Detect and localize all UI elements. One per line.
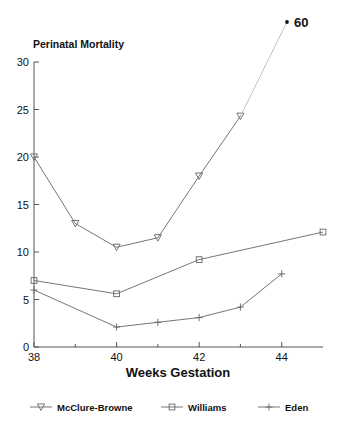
perinatal-mortality-line-chart: 051015202530 38404244 Perinatal Mortalit… — [0, 0, 337, 422]
series-williams — [31, 229, 326, 297]
legend-item-mcclure-browne[interactable]: McClure-Browne — [30, 402, 132, 413]
y-tick-label: 20 — [17, 151, 29, 163]
legend-label: Eden — [285, 402, 308, 413]
y-tick-label: 30 — [17, 56, 29, 68]
chart-container: 051015202530 38404244 Perinatal Mortalit… — [0, 0, 337, 422]
y-tick-label: 10 — [17, 246, 29, 258]
x-axis-title: Weeks Gestation — [126, 365, 231, 380]
offscale-dot-icon — [285, 20, 289, 24]
series-polyline — [34, 232, 323, 294]
plot-title: Perinatal Mortality — [33, 38, 124, 50]
series-layer — [30, 113, 325, 331]
y-tick-label: 15 — [17, 199, 29, 211]
x-axis-ticks: 38404244 — [28, 342, 288, 363]
offscale-value-label: 60 — [294, 15, 308, 30]
y-axis-ticks: 051015202530 — [17, 56, 39, 353]
axes — [34, 62, 323, 347]
x-tick-label: 42 — [193, 351, 205, 363]
series-polyline — [34, 116, 240, 247]
series-mcclure-browne — [30, 113, 244, 251]
x-tick-label: 38 — [28, 351, 40, 363]
series-eden — [30, 270, 285, 330]
offscale-connector-line — [240, 22, 287, 116]
x-tick-label: 40 — [110, 351, 122, 363]
y-tick-label: 25 — [17, 104, 29, 116]
x-tick-label: 44 — [276, 351, 288, 363]
legend-label: McClure-Browne — [57, 402, 132, 413]
legend-label: Williams — [188, 402, 226, 413]
annotation-layer: 60 — [240, 15, 308, 116]
legend-item-williams[interactable]: Williams — [161, 402, 226, 413]
chart-legend: McClure-BrowneWilliamsEden — [30, 402, 308, 413]
y-tick-label: 5 — [23, 294, 29, 306]
legend-item-eden[interactable]: Eden — [258, 402, 308, 413]
